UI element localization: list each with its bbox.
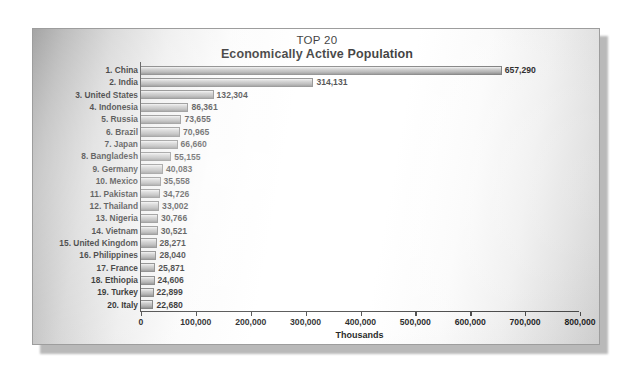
bar-container: 657,290: [141, 66, 502, 75]
category-label: 10. Mexico: [32, 175, 140, 187]
chart-card: TOP 20 Economically Active Population 1.…: [32, 28, 600, 345]
bar-container: 33,002: [141, 201, 159, 210]
bar-container: 34,726: [141, 189, 160, 198]
category-label: 7. Japan: [32, 138, 140, 150]
bar-value-label: 132,304: [214, 89, 248, 101]
bar: [141, 115, 181, 124]
bar: [141, 251, 156, 260]
category-label: 19. Turkey: [32, 286, 140, 298]
category-label: 16. Philippines: [32, 249, 140, 261]
bar: [141, 214, 158, 223]
bar-row: 12. Thailand33,002: [33, 200, 600, 212]
bar: [141, 189, 160, 198]
bar-value-label: 28,040: [156, 249, 185, 261]
bar: [141, 177, 161, 186]
bar-container: 55,155: [141, 152, 171, 161]
bar-row: 1. China657,290: [33, 64, 600, 76]
bar-container: 28,040: [141, 251, 156, 260]
x-axis-tick: [306, 312, 307, 316]
bar: [141, 103, 188, 112]
bar-row: 11. Pakistan34,726: [33, 188, 600, 200]
bar-row: 2. India314,131: [33, 76, 600, 88]
category-label: 6. Brazil: [32, 126, 140, 138]
bar-container: 22,899: [141, 288, 154, 297]
x-axis-line: [140, 311, 579, 312]
category-label: 4. Indonesia: [32, 101, 140, 113]
bar: [141, 78, 313, 87]
bar-container: 40,083: [141, 164, 163, 173]
category-label: 8. Bangladesh: [32, 150, 140, 162]
bar: [141, 288, 154, 297]
bar-container: 73,655: [141, 115, 181, 124]
bar-value-label: 35,558: [161, 175, 190, 187]
x-axis-tick: [470, 312, 471, 316]
category-label: 9. Germany: [32, 163, 140, 175]
bar-container: 30,521: [141, 226, 158, 235]
y-axis-line: [140, 62, 141, 312]
bar-row: 3. United States132,304: [33, 89, 600, 101]
x-axis-tick: [580, 312, 581, 316]
category-label: 15. United Kingdom: [32, 237, 140, 249]
x-axis-tick: [525, 312, 526, 316]
category-label: 2. India: [32, 76, 140, 88]
x-axis-tick-label: 600,000: [455, 317, 486, 327]
bar-row: 9. Germany40,083: [33, 163, 600, 175]
bar-row: 14. Vietnam30,521: [33, 225, 600, 237]
bar: [141, 90, 214, 99]
category-label: 1. China: [32, 64, 140, 76]
bar: [141, 201, 159, 210]
bar: [141, 263, 155, 272]
bar-row: 18. Ethiopia24,606: [33, 274, 600, 286]
bar-value-label: 30,766: [158, 212, 187, 224]
category-label: 12. Thailand: [32, 200, 140, 212]
bar-row: 16. Philippines28,040: [33, 249, 600, 261]
x-axis-tick: [196, 312, 197, 316]
bar-value-label: 30,521: [158, 225, 187, 237]
x-axis-tick: [415, 312, 416, 316]
bar-row: 13. Nigeria30,766: [33, 212, 600, 224]
bar-row: 5. Russia73,655: [33, 113, 600, 125]
bar-value-label: 25,871: [155, 262, 184, 274]
bar-value-label: 73,655: [181, 113, 210, 125]
category-label: 17. France: [32, 262, 140, 274]
category-label: 13. Nigeria: [32, 212, 140, 224]
bar-container: 132,304: [141, 90, 214, 99]
x-axis-title: Thousands: [140, 330, 579, 340]
bar-value-label: 314,131: [313, 76, 347, 88]
bar-value-label: 24,606: [155, 274, 184, 286]
bar-value-label: 66,660: [178, 138, 207, 150]
bar-container: 28,271: [141, 238, 157, 247]
bar-value-label: 86,361: [188, 101, 217, 113]
plot-area: 1. China657,2902. India314,1313. United …: [33, 29, 600, 345]
x-axis-tick-label: 400,000: [345, 317, 376, 327]
bar-container: 66,660: [141, 140, 178, 149]
x-axis-tick-label: 100,000: [180, 317, 211, 327]
x-axis-tick-label: 700,000: [510, 317, 541, 327]
bar-row: 6. Brazil70,965: [33, 126, 600, 138]
bar-value-label: 657,290: [502, 64, 536, 76]
bar-row: 15. United Kingdom28,271: [33, 237, 600, 249]
bar-container: 70,965: [141, 127, 180, 136]
bar: [141, 140, 178, 149]
category-label: 14. Vietnam: [32, 225, 140, 237]
scanned-page: TOP 20 Economically Active Population 1.…: [0, 0, 634, 369]
bar-value-label: 34,726: [160, 188, 189, 200]
bar-row: 17. France25,871: [33, 262, 600, 274]
bar: [141, 276, 155, 285]
x-axis-tick-label: 200,000: [235, 317, 266, 327]
x-axis-tick: [251, 312, 252, 316]
x-axis-tick-label: 800,000: [564, 317, 595, 327]
bar-row: 8. Bangladesh55,155: [33, 150, 600, 162]
bar-container: 22,680: [141, 300, 153, 309]
bar-value-label: 70,965: [180, 126, 209, 138]
x-axis-tick-label: 0: [139, 317, 144, 327]
bar-row: 7. Japan66,660: [33, 138, 600, 150]
category-label: 3. United States: [32, 89, 140, 101]
bar: [141, 152, 171, 161]
x-axis-tick: [361, 312, 362, 316]
bar: [141, 66, 502, 75]
bar-container: 25,871: [141, 263, 155, 272]
x-axis-tick: [141, 312, 142, 316]
bar-value-label: 28,271: [157, 237, 186, 249]
x-axis-tick-label: 300,000: [290, 317, 321, 327]
